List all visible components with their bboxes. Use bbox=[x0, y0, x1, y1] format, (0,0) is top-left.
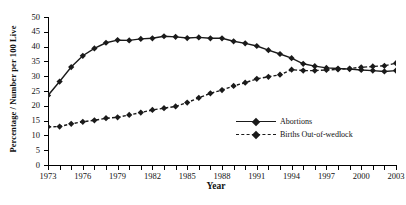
x-tick-mark bbox=[326, 166, 327, 170]
x-tick-label: 1982 bbox=[135, 171, 169, 181]
data-point-marker bbox=[288, 67, 294, 73]
data-point-marker bbox=[230, 38, 236, 44]
x-tick-mark bbox=[396, 166, 397, 170]
x-tick-label: 1991 bbox=[240, 171, 274, 181]
x-tick-label: 1994 bbox=[275, 171, 309, 181]
y-tick-label: 25 bbox=[20, 87, 40, 96]
x-tick-mark bbox=[118, 166, 119, 170]
data-point-marker bbox=[254, 76, 260, 82]
data-point-marker bbox=[265, 47, 271, 53]
series-layer bbox=[48, 17, 396, 165]
data-point-marker bbox=[103, 40, 109, 46]
data-point-marker bbox=[265, 74, 271, 80]
data-point-marker bbox=[219, 87, 225, 93]
data-point-marker bbox=[91, 117, 97, 123]
legend-label-abortions: Abortions bbox=[280, 117, 312, 126]
plot-area bbox=[48, 17, 396, 165]
data-point-marker bbox=[207, 35, 213, 41]
data-point-marker bbox=[126, 37, 132, 43]
y-tick-label: 10 bbox=[20, 131, 40, 140]
x-tick-label: 1973 bbox=[31, 171, 65, 181]
x-tick-mark bbox=[83, 166, 84, 170]
data-point-marker bbox=[277, 51, 283, 57]
data-point-marker bbox=[312, 67, 318, 73]
x-tick-mark bbox=[106, 166, 107, 170]
data-point-marker bbox=[161, 33, 167, 39]
data-point-marker bbox=[138, 36, 144, 42]
data-point-marker bbox=[196, 95, 202, 101]
y-tick-label: 30 bbox=[20, 72, 40, 81]
chart-figure: Percentage / Number per 100 Live 0510152… bbox=[0, 0, 406, 205]
x-tick-mark bbox=[384, 166, 385, 170]
x-tick-mark bbox=[303, 166, 304, 170]
data-point-marker bbox=[370, 63, 376, 69]
x-tick-label: 1976 bbox=[66, 171, 100, 181]
data-point-marker bbox=[114, 114, 120, 120]
y-tick-label: 20 bbox=[20, 101, 40, 110]
x-tick-mark bbox=[60, 166, 61, 170]
x-tick-label: 1997 bbox=[309, 171, 343, 181]
data-point-marker bbox=[172, 34, 178, 40]
x-tick-mark bbox=[280, 166, 281, 170]
data-point-marker bbox=[242, 40, 248, 46]
x-tick-mark bbox=[373, 166, 374, 170]
data-point-marker bbox=[172, 103, 178, 109]
data-point-marker bbox=[114, 37, 120, 43]
data-point-marker bbox=[48, 124, 51, 130]
data-point-marker bbox=[300, 67, 306, 73]
data-point-marker bbox=[184, 35, 190, 41]
x-tick-mark bbox=[141, 166, 142, 170]
x-tick-label: 2003 bbox=[379, 171, 406, 181]
data-point-marker bbox=[207, 90, 213, 96]
x-tick-mark bbox=[48, 166, 49, 170]
data-point-marker bbox=[381, 68, 387, 74]
x-tick-mark bbox=[350, 166, 351, 170]
legend-item-births-out-of-wedlock: Births Out-of-wedlock bbox=[236, 128, 353, 141]
x-tick-mark bbox=[187, 166, 188, 170]
x-tick-mark bbox=[199, 166, 200, 170]
x-tick-mark bbox=[71, 166, 72, 170]
data-point-marker bbox=[346, 65, 352, 71]
y-tick-label: 45 bbox=[20, 27, 40, 36]
data-point-marker bbox=[254, 43, 260, 49]
x-tick-mark bbox=[315, 166, 316, 170]
data-point-marker bbox=[219, 35, 225, 41]
data-point-marker bbox=[381, 63, 387, 69]
x-tick-mark bbox=[245, 166, 246, 170]
x-tick-mark bbox=[222, 166, 223, 170]
legend-label-births-out-of-wedlock: Births Out-of-wedlock bbox=[280, 130, 353, 139]
data-point-marker bbox=[149, 35, 155, 41]
y-axis-title: Percentage / Number per 100 Live bbox=[8, 14, 18, 164]
x-tick-mark bbox=[268, 166, 269, 170]
x-tick-mark bbox=[234, 166, 235, 170]
legend-swatch-solid-line-icon bbox=[236, 117, 276, 127]
y-tick-label: 0 bbox=[20, 161, 40, 170]
x-tick-mark bbox=[94, 166, 95, 170]
data-point-marker bbox=[126, 112, 132, 118]
y-tick-label: 50 bbox=[20, 13, 40, 22]
data-point-marker bbox=[56, 123, 62, 129]
data-point-marker bbox=[196, 34, 202, 40]
data-point-marker bbox=[393, 67, 396, 73]
data-point-marker bbox=[161, 105, 167, 111]
x-tick-label: 1985 bbox=[170, 171, 204, 181]
x-tick-mark bbox=[292, 166, 293, 170]
series-line bbox=[48, 36, 396, 95]
data-point-marker bbox=[80, 119, 86, 125]
data-point-marker bbox=[138, 109, 144, 115]
x-tick-mark bbox=[361, 166, 362, 170]
x-tick-mark bbox=[210, 166, 211, 170]
data-point-marker bbox=[288, 55, 294, 61]
y-tick-label: 40 bbox=[20, 42, 40, 51]
data-point-marker bbox=[103, 115, 109, 121]
x-tick-mark bbox=[257, 166, 258, 170]
data-point-marker bbox=[184, 99, 190, 105]
data-point-marker bbox=[68, 121, 74, 127]
x-tick-mark bbox=[338, 166, 339, 170]
x-tick-label: 1988 bbox=[205, 171, 239, 181]
chart-legend: Abortions Births Out-of-wedlock bbox=[236, 115, 353, 141]
data-point-marker bbox=[242, 80, 248, 86]
legend-swatch-dashed-line-icon bbox=[236, 130, 276, 140]
data-point-marker bbox=[335, 66, 341, 72]
x-tick-mark bbox=[129, 166, 130, 170]
